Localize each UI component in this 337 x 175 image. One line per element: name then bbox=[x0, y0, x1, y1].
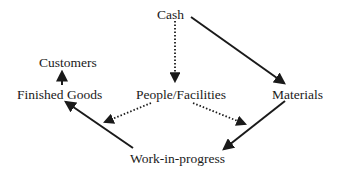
node-materials: Materials bbox=[272, 88, 323, 102]
cash-flow-diagram: Cash Customers Finished Goods People/Fac… bbox=[0, 0, 337, 175]
node-people-facilities: People/Facilities bbox=[136, 88, 226, 102]
node-work-in-progress: Work-in-progress bbox=[130, 152, 225, 166]
edge-materials-to-wip bbox=[224, 101, 285, 149]
node-cash: Cash bbox=[157, 8, 184, 22]
edge-people-to-finished-goods-flow bbox=[105, 103, 151, 122]
edge-cash-to-materials bbox=[191, 17, 284, 83]
edge-people-to-wip-flow bbox=[193, 103, 245, 124]
node-customers: Customers bbox=[39, 56, 97, 70]
node-finished-goods: Finished Goods bbox=[17, 88, 102, 102]
edge-wip-to-finished-goods bbox=[66, 102, 133, 148]
